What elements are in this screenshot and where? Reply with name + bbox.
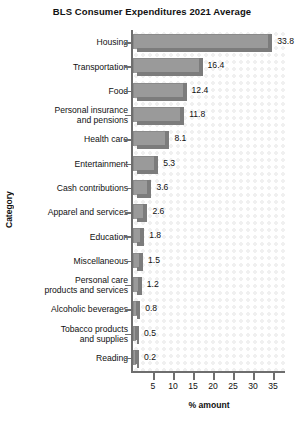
category-label: Transportation	[0, 55, 128, 79]
bar-side-shadow	[147, 180, 151, 194]
category-label: Health care	[0, 128, 128, 152]
bar	[133, 83, 187, 101]
bar-bottom-shadow	[137, 218, 147, 222]
category-label: Alcoholic beverages	[0, 298, 128, 322]
bar-row: Cash contributions3.6	[0, 177, 304, 201]
y-axis-tick	[125, 164, 132, 166]
bar	[133, 253, 143, 271]
bar-face	[133, 156, 155, 171]
bar	[133, 34, 272, 52]
bar-value-label: 2.6	[152, 206, 164, 216]
x-axis-tick	[253, 373, 255, 380]
bar-face	[133, 131, 166, 146]
y-axis-tick	[125, 115, 132, 117]
bar-face	[133, 58, 200, 73]
bar-face	[133, 34, 269, 49]
bar-value-label: 16.4	[208, 60, 225, 70]
bar-row: Reading0.2	[0, 347, 304, 371]
bar-bottom-shadow	[137, 267, 143, 271]
bar-side-shadow	[180, 107, 184, 121]
bar-value-label: 8.1	[174, 133, 186, 143]
y-axis-tick	[125, 66, 132, 68]
bar	[133, 58, 203, 76]
category-label: Education	[0, 225, 128, 249]
bar-side-shadow	[136, 301, 140, 315]
bar-row: Health care8.1	[0, 128, 304, 152]
bar-side-shadow	[138, 277, 142, 291]
category-label: Housing	[0, 31, 128, 55]
bar-value-label: 3.6	[156, 182, 168, 192]
bar-row: Tobacco products and supplies0.5	[0, 322, 304, 346]
category-label: Entertainment	[0, 152, 128, 176]
bar-value-label: 0.2	[144, 352, 156, 362]
bar	[133, 277, 142, 295]
bar-value-label: 1.5	[148, 255, 160, 265]
bar-row: Personal insurance and pensions11.8	[0, 104, 304, 128]
y-axis-tick	[125, 261, 132, 263]
bar-side-shadow	[183, 83, 187, 97]
bar-value-label: 1.8	[149, 230, 161, 240]
bar-bottom-shadow	[137, 170, 158, 174]
bar-side-shadow	[140, 228, 144, 242]
bar-row: Education1.8	[0, 225, 304, 249]
bar-bottom-shadow	[137, 364, 139, 368]
bar-value-label: 1.2	[147, 279, 159, 289]
bar	[133, 326, 139, 344]
category-label: Food	[0, 80, 128, 104]
bar-bottom-shadow	[137, 242, 144, 246]
y-axis-tick	[125, 358, 132, 360]
bar-side-shadow	[268, 34, 272, 48]
x-axis-tick	[233, 373, 235, 380]
bar-bottom-shadow	[137, 145, 169, 149]
bar-value-label: 5.3	[163, 158, 175, 168]
x-axis-tick-label: 20	[208, 381, 218, 391]
x-axis-tick-label: 5	[151, 381, 156, 391]
bar-value-label: 33.8	[277, 36, 294, 46]
y-axis-tick	[125, 309, 132, 311]
bar-face	[133, 180, 148, 195]
bar-row: Food12.4	[0, 80, 304, 104]
x-axis-tick	[173, 373, 175, 380]
bar-side-shadow	[165, 131, 169, 145]
bar	[133, 131, 169, 149]
y-axis-tick	[125, 188, 132, 190]
y-axis-tick	[125, 139, 132, 141]
category-label: Cash contributions	[0, 177, 128, 201]
bar-value-label: 11.8	[189, 109, 205, 119]
category-label: Personal insurance and pensions	[0, 104, 128, 128]
bar-bottom-shadow	[137, 194, 151, 198]
x-axis-ticks: 5101520253035	[0, 371, 304, 395]
bar-face	[133, 107, 181, 122]
bar-bottom-shadow	[137, 72, 203, 76]
bar-row: Entertainment5.3	[0, 152, 304, 176]
bar-row: Apparel and services2.6	[0, 201, 304, 225]
bar-bottom-shadow	[137, 97, 187, 101]
bar	[133, 107, 184, 125]
category-label: Tobacco products and supplies	[0, 322, 128, 346]
bar-side-shadow	[143, 204, 147, 218]
bar	[133, 350, 139, 368]
bar-side-shadow	[154, 156, 158, 170]
bar-bottom-shadow	[137, 121, 184, 125]
bar-bottom-shadow	[137, 340, 139, 344]
x-axis-tick-label: 35	[268, 381, 278, 391]
x-axis-tick	[153, 373, 155, 380]
x-axis-tick	[193, 373, 195, 380]
y-axis-tick	[125, 42, 132, 44]
bar-side-shadow	[139, 253, 143, 267]
bar	[133, 156, 158, 174]
bar-bottom-shadow	[137, 291, 142, 295]
bar	[133, 301, 140, 319]
bar-rows: Housing33.8Transportation16.4Food12.4Per…	[0, 31, 304, 371]
y-axis-tick	[125, 334, 132, 336]
x-axis-tick-label: 10	[168, 381, 178, 391]
y-axis-tick	[125, 285, 132, 287]
x-axis-tick	[213, 373, 215, 380]
x-axis-title: % amount	[133, 400, 285, 410]
category-label: Reading	[0, 347, 128, 371]
y-axis-tick	[125, 212, 132, 214]
bar-row: Miscellaneous1.5	[0, 250, 304, 274]
bar-row: Personal care products and services1.2	[0, 274, 304, 298]
bar-value-label: 0.8	[145, 303, 157, 313]
category-label: Apparel and services	[0, 201, 128, 225]
